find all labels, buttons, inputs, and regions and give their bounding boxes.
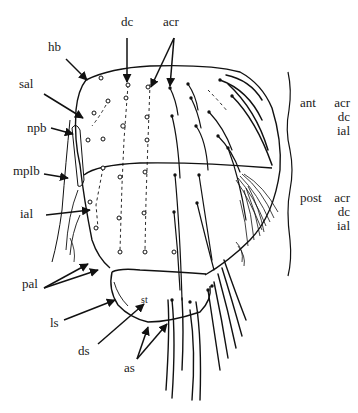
label-mplb: mplb (13, 164, 40, 177)
pointer-arrows (44, 38, 174, 359)
label-sal: sal (19, 77, 33, 90)
grouping-brace (287, 72, 292, 276)
legend-ant-dc: dc (338, 110, 350, 123)
label-pal: pal (22, 277, 38, 290)
label-ds: ds (78, 344, 90, 357)
label-npb: npb (27, 121, 47, 134)
bristle-sockets (86, 76, 176, 254)
scutellum-outline (111, 272, 210, 322)
legend-post-acr: acr (334, 191, 350, 204)
legend-ant-ial: ial (337, 124, 350, 137)
label-hb: hb (48, 40, 61, 53)
label-dc: dc (121, 15, 133, 28)
legend-post-dc: dc (338, 205, 350, 218)
label-ial: ial (20, 207, 33, 220)
bristles (166, 75, 272, 400)
label-acr: acr (163, 15, 179, 28)
thorax-diagram (0, 0, 358, 413)
wing-base (236, 174, 278, 266)
label-st: st (141, 293, 148, 306)
label-as: as (124, 361, 135, 374)
legend-ant-prefix: ant (300, 96, 316, 109)
legend-post-prefix: post (300, 191, 322, 204)
label-ls: ls (50, 316, 59, 329)
legend-ant-acr: acr (334, 96, 350, 109)
legend-post-ial: ial (337, 219, 350, 232)
